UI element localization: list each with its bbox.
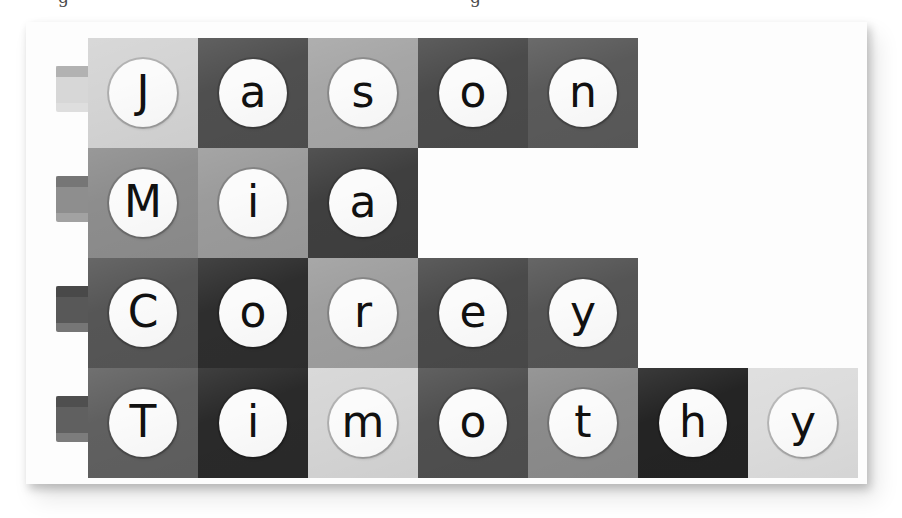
letter-glyph: r: [354, 290, 372, 334]
letter-tile[interactable]: y: [528, 258, 638, 368]
name-row: Jason: [88, 38, 638, 148]
row-connector-peg: [56, 396, 92, 442]
letter-glyph: h: [679, 400, 707, 444]
letter-glyph: m: [342, 400, 385, 444]
letter-disc: n: [549, 59, 617, 127]
name-row: Corey: [88, 258, 638, 368]
letter-tile[interactable]: C: [88, 258, 198, 368]
letter-disc: m: [329, 389, 397, 457]
letter-glyph: y: [570, 290, 596, 334]
letter-glyph: T: [130, 400, 157, 444]
letter-disc: y: [769, 389, 837, 457]
letter-tile[interactable]: y: [748, 368, 858, 478]
letter-glyph: o: [460, 70, 487, 114]
letter-tile[interactable]: s: [308, 38, 418, 148]
text-fragment: g: [58, 0, 69, 7]
photo-card: JasonMiaCoreyTimothy: [26, 22, 867, 484]
letter-disc: a: [219, 59, 287, 127]
letter-tile[interactable]: n: [528, 38, 638, 148]
letter-disc: a: [329, 169, 397, 237]
letter-tile[interactable]: t: [528, 368, 638, 478]
letter-tile[interactable]: o: [198, 258, 308, 368]
letter-disc: T: [109, 389, 177, 457]
letter-tile[interactable]: a: [308, 148, 418, 258]
letter-tile[interactable]: J: [88, 38, 198, 148]
name-row: Timothy: [88, 368, 858, 478]
letter-tile[interactable]: r: [308, 258, 418, 368]
text-fragment: g: [470, 0, 481, 7]
letter-disc: M: [109, 169, 177, 237]
row-connector-peg: [56, 176, 92, 222]
row-connector-peg: [56, 66, 92, 112]
letter-disc: i: [219, 169, 287, 237]
letter-tile[interactable]: M: [88, 148, 198, 258]
letter-tile[interactable]: i: [198, 368, 308, 478]
letter-glyph: t: [574, 400, 591, 444]
letter-glyph: n: [569, 70, 597, 114]
letter-glyph: y: [790, 400, 816, 444]
letter-glyph: i: [247, 180, 259, 224]
letter-disc: t: [549, 389, 617, 457]
letter-tile[interactable]: o: [418, 38, 528, 148]
letter-tile-grid: JasonMiaCoreyTimothy: [26, 22, 867, 484]
letter-tile[interactable]: h: [638, 368, 748, 478]
letter-disc: h: [659, 389, 727, 457]
name-row: Mia: [88, 148, 418, 258]
letter-glyph: M: [124, 180, 162, 224]
page-text-fragments: gg: [0, 0, 902, 12]
letter-disc: s: [329, 59, 397, 127]
letter-disc: C: [109, 279, 177, 347]
letter-glyph: a: [350, 180, 377, 224]
letter-tile[interactable]: o: [418, 368, 528, 478]
letter-glyph: s: [352, 70, 375, 114]
letter-disc: J: [109, 59, 177, 127]
letter-disc: y: [549, 279, 617, 347]
letter-tile[interactable]: T: [88, 368, 198, 478]
letter-disc: e: [439, 279, 507, 347]
letter-glyph: o: [240, 290, 267, 334]
letter-glyph: i: [247, 400, 259, 444]
letter-disc: o: [439, 59, 507, 127]
letter-tile[interactable]: e: [418, 258, 528, 368]
letter-tile[interactable]: m: [308, 368, 418, 478]
letter-tile[interactable]: i: [198, 148, 308, 258]
letter-disc: i: [219, 389, 287, 457]
letter-disc: r: [329, 279, 397, 347]
letter-glyph: a: [240, 70, 267, 114]
letter-disc: o: [439, 389, 507, 457]
letter-glyph: e: [459, 290, 486, 334]
letter-glyph: C: [128, 290, 159, 334]
letter-glyph: J: [137, 70, 150, 114]
letter-tile[interactable]: a: [198, 38, 308, 148]
row-connector-peg: [56, 286, 92, 332]
letter-disc: o: [219, 279, 287, 347]
letter-glyph: o: [460, 400, 487, 444]
